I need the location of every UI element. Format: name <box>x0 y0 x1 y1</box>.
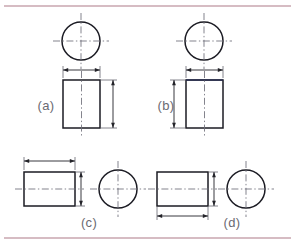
technical-drawing-figure: (a)(b)(c)(d) <box>0 0 295 247</box>
panel-b-height-dimension-arrowhead <box>172 80 176 85</box>
panel-b-height-dimension-arrowhead <box>172 123 176 128</box>
panel-d-length-dimension-arrowhead <box>157 214 162 218</box>
panel-c-diameter-dimension-arrowhead <box>79 172 83 177</box>
panel-b-width-dimension-arrowhead <box>218 68 223 72</box>
panel-c-length-dimension-arrowhead <box>70 159 75 163</box>
panel-b-label: (b) <box>158 98 175 113</box>
panel-c-label: (c) <box>81 215 97 230</box>
panel-b: (b) <box>158 13 232 137</box>
panel-d-diameter-dimension-arrowhead <box>212 172 216 177</box>
panel-b-width-dimension-arrowhead <box>186 68 191 72</box>
panel-c-length-dimension-arrowhead <box>24 159 29 163</box>
panel-a-width-dimension-arrowhead <box>63 68 68 72</box>
panel-c-length-dimension <box>24 157 75 170</box>
panel-d-length-dimension <box>157 207 208 220</box>
panel-a-label: (a) <box>38 98 55 113</box>
figure-page: (a)(b)(c)(d) <box>0 0 295 247</box>
panel-a-width-dimension-arrowhead <box>95 68 100 72</box>
panel-a-height-dimension-arrowhead <box>111 80 115 85</box>
panel-a-height-dimension-arrowhead <box>111 123 115 128</box>
panel-d-length-dimension-arrowhead <box>203 214 208 218</box>
panel-a-height-dimension <box>101 80 117 128</box>
panel-d: (d) <box>148 161 274 230</box>
panel-c: (c) <box>15 157 146 230</box>
panel-d-label: (d) <box>224 215 241 230</box>
panel-c-diameter-dimension-arrowhead <box>79 201 83 206</box>
panel-d-diameter-dimension-arrowhead <box>212 201 216 206</box>
panel-a: (a) <box>38 13 117 137</box>
